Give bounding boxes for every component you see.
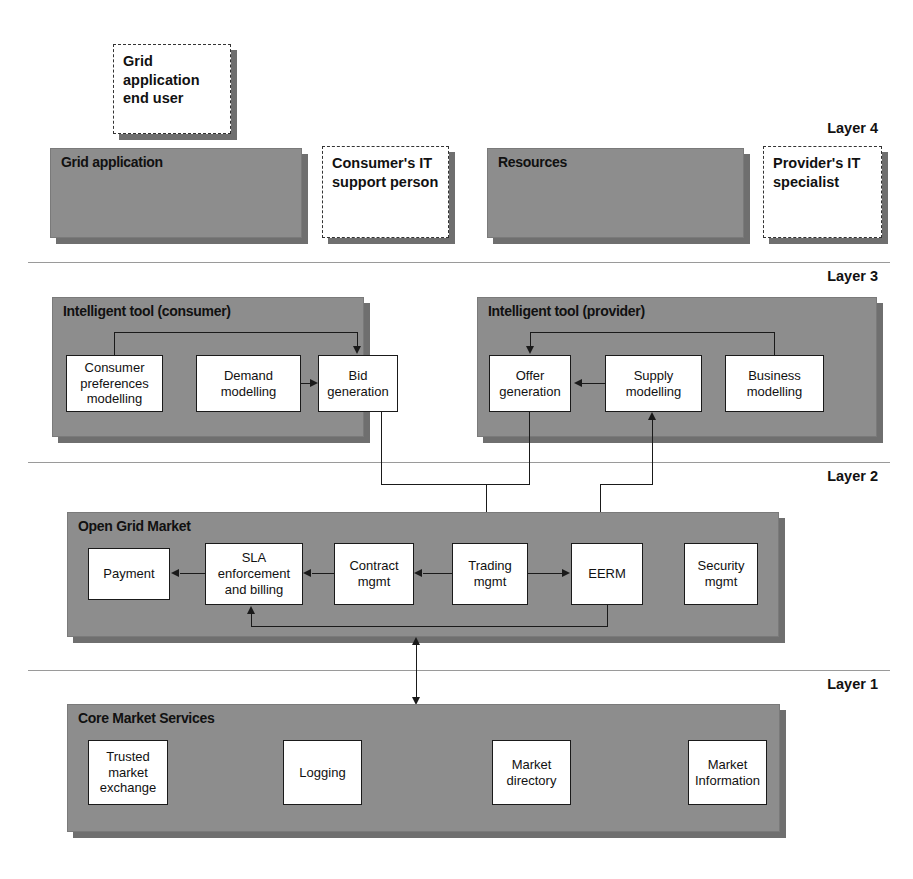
node-label: Offer generation: [492, 368, 568, 400]
connector-market-to-core-services: [416, 644, 417, 699]
node-label: Payment: [103, 566, 154, 582]
arrowhead-into-supply-modelling: [648, 412, 656, 420]
connector-business-down: [530, 332, 531, 347]
panel-core-market-services-title: Core Market Services: [78, 710, 214, 726]
node-label: EERM: [588, 566, 626, 582]
node-label: Market Information: [691, 757, 764, 789]
panel-resources: Resources: [487, 148, 744, 238]
connector-sla-to-payment: [180, 573, 205, 574]
node-trusted-market-exchange: Trusted market exchange: [88, 740, 168, 805]
node-trading-mgmt: Trading mgmt: [452, 543, 528, 605]
node-label: Business modelling: [728, 368, 821, 400]
node-market-information: Market Information: [688, 740, 767, 805]
connector-eerm-to-supply: [652, 420, 653, 485]
node-label: SLA enforcement and billing: [208, 550, 300, 598]
connector-eerm-feedback-across: [251, 626, 608, 627]
node-label: Security mgmt: [687, 558, 755, 590]
node-market-directory: Market directory: [492, 740, 571, 805]
arrowhead-into-sla-bottom: [247, 606, 255, 614]
node-eerm: EERM: [571, 543, 643, 605]
connector-eerm-feedback-up: [251, 614, 252, 627]
connector-eerm-jog: [600, 484, 653, 485]
node-label: Supply modelling: [608, 368, 699, 400]
connector-trading-to-contract: [423, 573, 452, 574]
node-business-modelling: Business modelling: [725, 355, 824, 412]
layer-label-1: Layer 1: [778, 676, 878, 692]
layer-label-2: Layer 2: [778, 468, 878, 484]
actor-end-user-label: Grid application end user: [123, 53, 200, 106]
node-supply-modelling: Supply modelling: [605, 355, 702, 412]
connector-supply-to-offer: [582, 383, 605, 384]
node-sla-enforcement-and-billing: SLA enforcement and billing: [205, 543, 303, 605]
arrowhead-into-contract-mgmt: [414, 569, 422, 577]
connector-business-across: [530, 332, 775, 333]
node-label: Contract mgmt: [337, 558, 411, 590]
node-label: Trusted market exchange: [91, 749, 165, 797]
panel-grid-application-title: Grid application: [61, 154, 163, 170]
actor-grid-application-end-user: Grid application end user: [113, 44, 231, 134]
node-label: Market directory: [495, 757, 568, 789]
node-label: Demand modelling: [199, 368, 298, 400]
node-payment: Payment: [88, 548, 170, 600]
node-contract-mgmt: Contract mgmt: [334, 543, 414, 605]
panel-provider-tool-title: Intelligent tool (provider): [488, 303, 645, 319]
node-label: Bid generation: [321, 368, 395, 400]
node-consumer-preferences-modelling: Consumer preferences modelling: [66, 355, 163, 412]
arrowhead-into-bid-generation-left: [310, 379, 318, 387]
connector-business-up: [774, 332, 775, 356]
panel-grid-application: Grid application: [50, 148, 302, 238]
architecture-diagram: Grid application end user Layer 4 Grid a…: [0, 0, 913, 879]
connector-prefs-up: [114, 332, 115, 356]
connector-prefs-across: [114, 332, 358, 333]
arrowhead-into-bid-generation-top: [353, 346, 361, 354]
actor-consumer-it-label: Consumer's IT support person: [332, 155, 438, 190]
node-logging: Logging: [283, 740, 362, 805]
actor-provider-it-label: Provider's IT specialist: [773, 155, 860, 190]
arrowhead-up-to-open-grid-market: [412, 637, 420, 645]
panel-resources-title: Resources: [498, 154, 567, 170]
separator-layer2: [28, 670, 890, 671]
node-label: Consumer preferences modelling: [69, 360, 160, 408]
arrowhead-into-sla: [303, 569, 311, 577]
connector-bid-down: [381, 412, 382, 485]
connector-offer-merge: [429, 484, 530, 485]
connector-contract-to-sla: [312, 573, 334, 574]
connector-offer-down: [529, 412, 530, 485]
arrowhead-into-offer-generation-top: [526, 346, 534, 354]
layer-label-4: Layer 4: [778, 120, 878, 136]
panel-core-market-services: Core Market Services: [67, 704, 780, 832]
separator-layer4: [28, 262, 890, 263]
connector-trading-to-eerm: [528, 573, 562, 574]
arrowhead-into-eerm: [562, 569, 570, 577]
node-label: Logging: [299, 765, 345, 781]
arrowhead-into-payment: [171, 569, 179, 577]
actor-provider-it-specialist: Provider's IT specialist: [763, 146, 882, 238]
separator-layer3: [28, 462, 890, 463]
panel-open-grid-market-title: Open Grid Market: [78, 518, 191, 534]
node-security-mgmt: Security mgmt: [684, 543, 758, 605]
connector-eerm-feedback-down: [607, 605, 608, 627]
panel-consumer-tool-title: Intelligent tool (consumer): [63, 303, 231, 319]
node-bid-generation: Bid generation: [318, 355, 398, 412]
node-label: Trading mgmt: [455, 558, 525, 590]
layer-label-3: Layer 3: [778, 268, 878, 284]
node-demand-modelling: Demand modelling: [196, 355, 301, 412]
node-offer-generation: Offer generation: [489, 355, 571, 412]
connector-prefs-down: [357, 332, 358, 347]
actor-consumer-it-support-person: Consumer's IT support person: [322, 146, 449, 238]
arrowhead-into-offer-generation-right: [574, 379, 582, 387]
